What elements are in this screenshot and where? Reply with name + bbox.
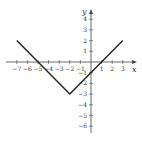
y-tick-label: −3 [78, 90, 87, 97]
x-tick-label: −6 [23, 65, 32, 72]
x-axis-label: x [132, 65, 137, 74]
x-axis-arrow-icon [132, 60, 137, 64]
y-tick-label: −6 [78, 122, 87, 129]
ticks [17, 19, 123, 126]
y-axis-label: y [81, 7, 87, 16]
y-tick-label: 1 [83, 47, 87, 54]
x-tick-label: 2 [110, 65, 114, 72]
tick-labels: −7−6−5−4−3−2−11234321−1−2−3−4−5−6 [12, 15, 125, 129]
y-tick-label: 4 [83, 15, 87, 22]
y-tick-label: −4 [78, 101, 87, 108]
x-tick-label: −7 [12, 65, 21, 72]
function-graph: −7−6−5−4−3−2−11234321−1−2−3−4−5−6 x y [0, 0, 142, 141]
y-axis-arrow-icon [89, 9, 93, 14]
y-tick-label: −1 [78, 69, 87, 76]
y-tick-label: 2 [83, 37, 87, 44]
x-tick-label: 1 [100, 65, 104, 72]
x-tick-label: −4 [44, 65, 53, 72]
y-tick-label: 3 [83, 26, 87, 33]
x-tick-label: −3 [55, 65, 64, 72]
x-tick-label: 3 [121, 65, 125, 72]
x-tick-label: −2 [65, 65, 74, 72]
y-tick-label: −5 [78, 112, 87, 119]
